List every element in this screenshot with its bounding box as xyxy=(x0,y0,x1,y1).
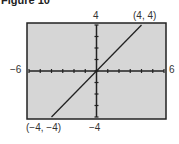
point-label-top: (4, 4) xyxy=(133,10,156,21)
x-min-label: −6 xyxy=(10,64,21,75)
y-min-label: −4 xyxy=(89,122,100,133)
x-max-label: 6 xyxy=(169,64,175,75)
point-label-bottom: (−4, −4) xyxy=(26,122,61,133)
y-max-label: 4 xyxy=(93,10,99,21)
